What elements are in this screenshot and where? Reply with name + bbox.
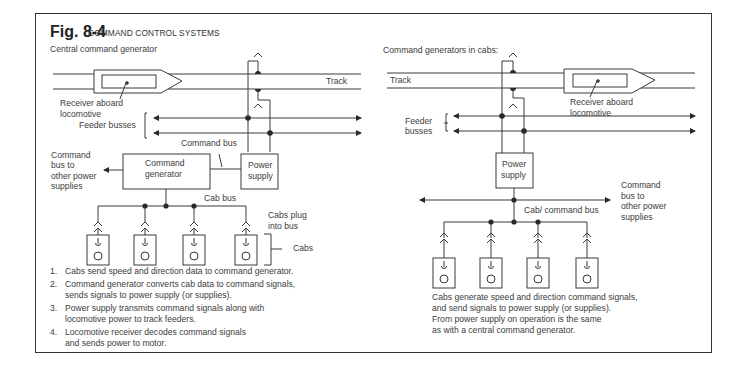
step-3-text-2: locomotive power to track feeders. (65, 314, 196, 325)
right-pickup-bottom-icon (509, 104, 517, 108)
right-feeder-label-2: busses (405, 126, 432, 137)
step-3-number: 3. (50, 303, 57, 313)
right-track-label: Track (390, 75, 411, 86)
step-2-text-2: sends signals to power supply (or suppli… (65, 290, 232, 301)
left-heading: Central command generator (50, 44, 157, 55)
right-receiver-dot (597, 80, 600, 83)
step-4-text-1: Locomotive receiver decodes command sign… (65, 327, 246, 338)
right-other-supplies-label-4: supplies (621, 212, 653, 223)
step-2-text-1: Command generator converts cab data to c… (65, 279, 295, 290)
step-4: 4. Locomotive receiver decodes command s… (50, 327, 57, 338)
left-other-supplies-label-1: Command (51, 150, 91, 161)
cab-bus-label: Cab bus (204, 193, 236, 204)
command-bus-label: Command bus (181, 138, 237, 149)
left-power-supply-label-2: supply (248, 171, 273, 182)
left-receiver-label-1: Receiver aboard (60, 98, 123, 109)
right-locomotive (564, 69, 655, 97)
left-other-supplies-label-3: other power (51, 171, 96, 182)
right-receiver-label-2: locomotive (570, 108, 611, 119)
right-caption-line-3: From power supply on operation is the sa… (432, 314, 602, 325)
step-4-number: 4. (50, 327, 57, 337)
right-receiver-label-1: Receiver aboard (570, 97, 633, 108)
right-power-supply-label-1: Power (502, 159, 526, 170)
command-generator-label-1: Command (145, 158, 185, 169)
left-pickup-top-icon (254, 53, 262, 57)
command-generator-label-2: generator (145, 169, 182, 180)
left-other-supplies-label-2: bus to (51, 160, 74, 171)
right-other-supplies-label-3: other power (621, 201, 666, 212)
left-feeder-busses-label: Feeder busses (79, 120, 136, 131)
left-pickup-bottom-icon (254, 104, 262, 108)
left-cabs (87, 235, 257, 265)
cab-command-bus-label: Cab/ command bus (524, 205, 599, 216)
cabs-plug-label-1: Cabs plug (268, 210, 307, 221)
right-heading: Command generators in cabs: (383, 45, 498, 56)
right-feeder-verticals (502, 61, 524, 153)
left-locomotive (94, 70, 182, 99)
left-power-supply-label-1: Power (248, 160, 272, 171)
right-caption-line-4: as with a central command generator. (432, 325, 575, 336)
left-cab-connectors (94, 222, 250, 236)
cab-bus-line (98, 206, 246, 222)
cabs-label: Cabs (293, 243, 313, 254)
right-other-supplies-label-1: Command (621, 180, 661, 191)
step-3: 3. Power supply transmits command signal… (50, 303, 57, 314)
cabs-bracket (264, 234, 271, 265)
right-power-supply-label-2: supply (501, 170, 526, 181)
cabs-plug-label-2: into bus (268, 221, 298, 232)
step-1: 1. Cabs send speed and direction data to… (50, 266, 57, 277)
left-receiver-label-2: locomotive (60, 109, 101, 120)
right-feeder-bracket (444, 114, 448, 131)
right-pickup-top-icon (509, 53, 517, 57)
command-bus-pointer (219, 154, 222, 167)
step-2: 2. Command generator converts cab data t… (50, 279, 57, 290)
step-1-number: 1. (50, 266, 57, 276)
left-feeder-verticals (248, 61, 270, 152)
right-cab-connectors (440, 233, 591, 258)
right-caption-line-1: Cabs generate speed and direction comman… (432, 292, 637, 303)
step-3-text-1: Power supply transmits command signals a… (65, 303, 264, 314)
right-caption-line-2: and send signals to power supply (or sup… (432, 303, 611, 314)
step-1-text: Cabs send speed and direction data to co… (65, 266, 293, 277)
right-cabs (433, 258, 598, 288)
right-other-supplies-label-2: bus to (621, 191, 644, 202)
right-feeder-label-1: Feeder (405, 116, 432, 127)
left-feeder-bracket (145, 113, 147, 138)
cab-command-bus-line (444, 222, 587, 238)
step-2-number: 2. (50, 279, 57, 289)
left-track-label: Track (326, 76, 347, 87)
left-receiver-dot (126, 82, 129, 85)
left-other-supplies-label-4: supplies (51, 181, 83, 192)
step-4-text-2: and sends power to motor. (65, 338, 166, 349)
